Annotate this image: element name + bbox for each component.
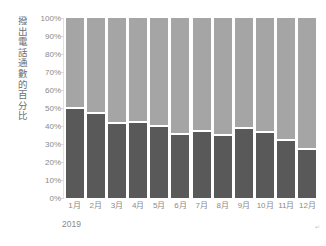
y-tick-label: 100% bbox=[27, 14, 61, 23]
bar-segment-top[interactable] bbox=[193, 18, 211, 130]
bar-segment-bottom[interactable] bbox=[256, 133, 274, 198]
y-tick-label: 40% bbox=[27, 122, 61, 131]
bar-segment-top[interactable] bbox=[298, 18, 316, 148]
x-tick-label: 6月 bbox=[170, 200, 191, 214]
bar-series-container bbox=[64, 18, 318, 198]
x-tick-label: 1月 bbox=[64, 200, 85, 214]
bar-segment-top[interactable] bbox=[87, 18, 105, 112]
x-tick-label: 4月 bbox=[128, 200, 149, 214]
y-tick-mark bbox=[61, 198, 64, 199]
bar-group[interactable] bbox=[64, 18, 85, 198]
bar-group[interactable] bbox=[191, 18, 212, 198]
y-axis-tick-labels: 100%90%80%70%60%50%40%30%20%10%0% bbox=[27, 0, 61, 246]
bar-stack[interactable] bbox=[108, 18, 126, 198]
bar-group[interactable] bbox=[128, 18, 149, 198]
bar-segment-top[interactable] bbox=[129, 18, 147, 121]
y-tick-label: 10% bbox=[27, 176, 61, 185]
y-tick-mark bbox=[61, 72, 64, 73]
bar-segment-bottom[interactable] bbox=[129, 123, 147, 198]
y-tick-mark bbox=[61, 36, 64, 37]
y-tick-label: 60% bbox=[27, 86, 61, 95]
y-tick-label: 50% bbox=[27, 104, 61, 113]
bar-stack[interactable] bbox=[235, 18, 253, 198]
bar-segment-top[interactable] bbox=[214, 18, 232, 134]
bar-group[interactable] bbox=[233, 18, 254, 198]
y-tick-mark bbox=[61, 54, 64, 55]
bar-stack[interactable] bbox=[298, 18, 316, 198]
bar-segment-bottom[interactable] bbox=[171, 135, 189, 198]
x-tick-label: 10月 bbox=[255, 200, 276, 214]
y-tick-mark bbox=[61, 144, 64, 145]
bar-group[interactable] bbox=[170, 18, 191, 198]
bar-group[interactable] bbox=[85, 18, 106, 198]
bar-stack[interactable] bbox=[171, 18, 189, 198]
x-axis-title: 2019 bbox=[62, 219, 81, 229]
y-tick-label: 20% bbox=[27, 158, 61, 167]
bar-group[interactable] bbox=[276, 18, 297, 198]
bar-segment-bottom[interactable] bbox=[298, 150, 316, 198]
bar-stack[interactable] bbox=[193, 18, 211, 198]
bar-segment-top[interactable] bbox=[235, 18, 253, 127]
bar-segment-top[interactable] bbox=[171, 18, 189, 133]
bar-stack[interactable] bbox=[66, 18, 84, 198]
bar-segment-bottom[interactable] bbox=[277, 141, 295, 198]
y-tick-mark bbox=[61, 18, 64, 19]
bar-segment-bottom[interactable] bbox=[108, 124, 126, 198]
y-tick-mark bbox=[61, 90, 64, 91]
bar-segment-bottom[interactable] bbox=[235, 129, 253, 198]
y-tick-label: 0% bbox=[27, 194, 61, 203]
bar-segment-bottom[interactable] bbox=[87, 114, 105, 198]
x-tick-label: 12月 bbox=[297, 200, 318, 214]
bar-group[interactable] bbox=[212, 18, 233, 198]
bar-segment-bottom[interactable] bbox=[193, 132, 211, 198]
bar-segment-top[interactable] bbox=[108, 18, 126, 122]
x-tick-label: 8月 bbox=[212, 200, 233, 214]
x-tick-label: 5月 bbox=[149, 200, 170, 214]
bar-group[interactable] bbox=[106, 18, 127, 198]
bar-stack[interactable] bbox=[87, 18, 105, 198]
bar-segment-bottom[interactable] bbox=[150, 127, 168, 198]
y-tick-mark bbox=[61, 108, 64, 109]
bar-stack[interactable] bbox=[214, 18, 232, 198]
y-tick-label: 30% bbox=[27, 140, 61, 149]
bar-stack[interactable] bbox=[256, 18, 274, 198]
x-axis-tick-labels: 1月2月3月4月5月6月7月8月9月10月11月12月 bbox=[64, 200, 318, 214]
bar-segment-top[interactable] bbox=[66, 18, 84, 107]
bar-stack[interactable] bbox=[277, 18, 295, 198]
bar-segment-bottom[interactable] bbox=[214, 136, 232, 198]
y-tick-mark bbox=[61, 162, 64, 163]
stacked-bar-chart: 撥出電話通數的百分比 100%90%80%70%60%50%40%30%20%1… bbox=[0, 0, 326, 246]
bar-stack[interactable] bbox=[150, 18, 168, 198]
x-tick-label: 3月 bbox=[106, 200, 127, 214]
x-tick-label: 2月 bbox=[85, 200, 106, 214]
bar-group[interactable] bbox=[255, 18, 276, 198]
bar-stack[interactable] bbox=[129, 18, 147, 198]
y-tick-label: 90% bbox=[27, 32, 61, 41]
y-tick-label: 80% bbox=[27, 50, 61, 59]
bar-segment-bottom[interactable] bbox=[66, 109, 84, 198]
bar-segment-top[interactable] bbox=[256, 18, 274, 131]
plot-area bbox=[64, 18, 318, 198]
bar-group[interactable] bbox=[297, 18, 318, 198]
bar-segment-top[interactable] bbox=[277, 18, 295, 139]
y-tick-mark bbox=[61, 180, 64, 181]
x-tick-label: 9月 bbox=[233, 200, 254, 214]
bar-segment-top[interactable] bbox=[150, 18, 168, 125]
y-tick-mark bbox=[61, 126, 64, 127]
x-tick-label: 7月 bbox=[191, 200, 212, 214]
y-tick-label: 70% bbox=[27, 68, 61, 77]
bar-group[interactable] bbox=[149, 18, 170, 198]
x-tick-label: 11月 bbox=[276, 200, 297, 214]
corner-mark: ↵ bbox=[315, 223, 320, 230]
y-axis-title: 撥出電話通數的百分比 bbox=[11, 16, 27, 196]
